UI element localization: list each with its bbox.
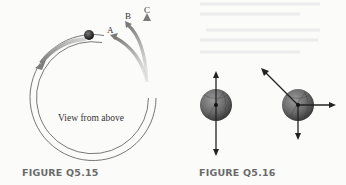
path-arrow-a (114, 37, 147, 82)
view-label: View from above (58, 113, 124, 123)
ball-diagram-1 (200, 71, 232, 156)
bleed-through-text (200, 4, 320, 52)
vector-up-left (264, 71, 298, 105)
figure-caption-q5-15: FIGURE Q5.15 (22, 167, 99, 178)
motion-arrow (41, 39, 86, 63)
figure-caption-q5-16: FIGURE Q5.16 (199, 167, 276, 178)
vector-down-head (295, 133, 301, 140)
figure-canvas: A B C View from above (0, 0, 346, 185)
ball-icon (84, 30, 94, 40)
vector-down-head (213, 149, 219, 156)
vector-up-head (213, 71, 219, 78)
vector-right-head (329, 102, 336, 108)
path-label-b: B (125, 11, 131, 21)
ball-diagram-2 (261, 68, 336, 140)
path-label-c: C (144, 5, 150, 15)
path-label-a: A (107, 25, 114, 35)
path-arrows (114, 18, 147, 82)
